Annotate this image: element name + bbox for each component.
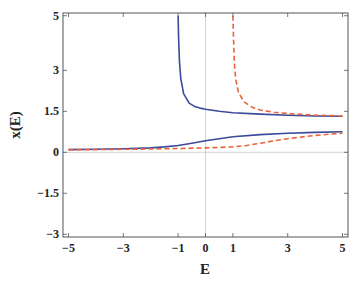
x-tick-label: −3 [117,241,130,255]
y-tick-label: 3 [53,63,59,77]
x-tick-label: 1 [230,241,236,255]
x-tick-label: 3 [285,241,291,255]
x-tick-label: −1 [172,241,185,255]
x-tick-label: 5 [340,241,346,255]
y-axis-label: x(E) [7,111,24,139]
x-tick-label: 0 [203,241,209,255]
y-tick-label: 5 [53,9,59,23]
y-tick-label: −1.5 [37,186,59,200]
x-axis-label: E [200,261,210,277]
chart: −5−3−10135 531.50−1.5−3 E x(E) [0,0,364,285]
y-tick-label: 0 [53,145,59,159]
y-tick-label: 1.5 [44,104,59,118]
x-tick-label: −5 [62,241,75,255]
y-tick-label: −3 [46,227,59,241]
